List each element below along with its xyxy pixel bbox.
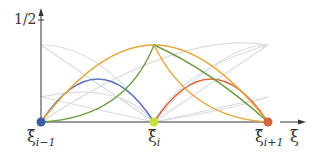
- node-right-label: ξ̂i+1: [255, 127, 284, 149]
- x-axis-arrow-icon: [298, 120, 306, 125]
- node-right: [264, 118, 273, 127]
- node-center-label: ξ̂i: [148, 127, 160, 149]
- x-axis-label: ξ: [290, 127, 299, 146]
- node-center: [150, 118, 159, 127]
- y-axis-arrow-icon: [39, 8, 44, 16]
- node-left: [37, 118, 46, 127]
- node-left-label: ξ̂i−1: [27, 127, 56, 149]
- basis-function-diagram: 1/2 ξ ξ̂i−1 ξ̂i ξ̂i+1: [0, 0, 320, 152]
- faint-curves: [41, 43, 268, 122]
- y-tick-label: 1/2: [14, 11, 37, 27]
